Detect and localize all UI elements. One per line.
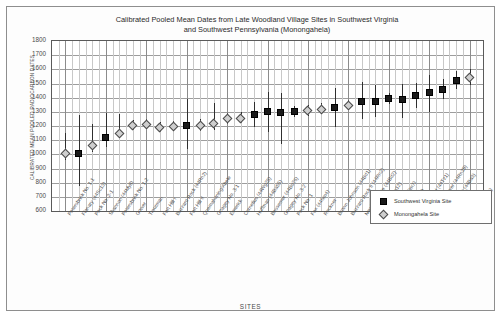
data-point-square-marker[interactable] [439,86,446,93]
data-point-diamond-marker[interactable] [236,113,246,123]
plot-area [51,40,484,212]
grid-line-vertical [476,41,477,211]
data-point-diamond-marker[interactable] [195,120,205,130]
data-point-square-marker[interactable] [358,98,365,105]
data-point-square-marker[interactable] [412,92,419,99]
data-point-square-marker[interactable] [331,104,338,111]
grid-line-vertical [402,41,403,211]
grid-line-vertical [362,41,363,211]
chart-frame: Calibrated Pooled Mean Dates from Late W… [6,6,495,311]
y-axis-tick-label: 700 [35,192,46,199]
chart-title-line-1: Calibrated Pooled Mean Dates from Late W… [67,15,447,25]
data-point-diamond-marker[interactable] [343,101,353,111]
data-point-diamond-marker[interactable] [61,149,71,159]
diamond-marker-icon [379,210,389,220]
grid-line-vertical-major [227,41,228,211]
y-axis-tick-label: 1400 [32,93,46,100]
data-point-square-marker[interactable] [385,95,392,102]
y-axis-tick-label: 1800 [32,36,46,43]
data-point-diamond-marker[interactable] [168,122,178,132]
y-axis-tick-label: 1000 [32,149,46,156]
grid-line-vertical [72,41,73,211]
data-point-diamond-marker[interactable] [303,105,313,115]
data-point-square-marker[interactable] [102,134,109,141]
y-axis-tick-label: 600 [35,206,46,213]
grid-line-vertical-major [389,41,390,211]
grid-line-vertical [321,41,322,211]
square-marker-icon [380,198,387,205]
chart-title: Calibrated Pooled Mean Dates from Late W… [67,15,447,35]
data-point-square-marker[interactable] [453,77,460,84]
data-point-diamond-marker[interactable] [128,120,138,130]
grid-line-vertical [416,41,417,211]
grid-line-vertical-major [348,41,349,211]
data-point-square-marker[interactable] [399,96,406,103]
grid-line-vertical [315,41,316,211]
data-point-diamond-marker[interactable] [114,128,124,138]
grid-line-vertical [207,41,208,211]
error-bar [106,113,107,146]
grid-line-vertical [375,41,376,211]
grid-line-vertical [153,41,154,211]
error-bar [281,93,282,143]
chart-legend: Southwest Virginia Site Monongahela Site [370,190,492,224]
grid-line-vertical-major [308,41,309,211]
data-point-diamond-marker[interactable] [222,114,232,124]
grid-line-vertical [342,41,343,211]
data-point-square-marker[interactable] [251,111,258,118]
data-point-square-marker[interactable] [372,98,379,105]
data-point-square-marker[interactable] [183,122,190,129]
grid-line-vertical-major [65,41,66,211]
y-axis-tick-label: 1100 [32,135,46,142]
y-axis-tick-label: 900 [35,164,46,171]
grid-line-vertical-major [429,41,430,211]
y-axis-tick-label: 1300 [32,107,46,114]
x-axis-tick-labels: Petersbrink No. 1-1Flanary (44Sc13)Peck … [51,213,484,305]
legend-label: Southwest Virginia Site [394,198,451,204]
grid-line-vertical [241,41,242,211]
chart-title-line-2: and Southwest Pennsylvania (Monongahela) [67,25,447,35]
grid-line-vertical [247,41,248,211]
data-point-diamond-marker[interactable] [209,119,219,129]
data-point-square-marker[interactable] [426,89,433,96]
data-point-diamond-marker[interactable] [87,141,97,151]
grid-line-vertical [113,41,114,211]
data-point-diamond-marker[interactable] [141,120,151,130]
y-axis-tick-label: 1500 [32,79,46,86]
y-axis-tick-labels: 1800170016001500140013001200110010009008… [7,34,49,218]
y-axis-tick-label: 1600 [32,64,46,71]
y-axis-tick-label: 1200 [32,121,46,128]
data-point-square-marker[interactable] [277,109,284,116]
data-point-square-marker[interactable] [264,108,271,115]
data-point-diamond-marker[interactable] [155,122,165,132]
grid-line-vertical [59,41,60,211]
data-point-square-marker[interactable] [291,108,298,115]
data-point-diamond-marker[interactable] [465,72,475,82]
data-point-square-marker[interactable] [75,150,82,157]
grid-line-vertical [180,41,181,211]
y-axis-tick-label: 800 [35,178,46,185]
grid-line-vertical [328,41,329,211]
grid-line-vertical [422,41,423,211]
legend-label: Monongahela Site [394,211,439,217]
y-axis-tick-label: 1700 [32,50,46,57]
grid-line-vertical [456,41,457,211]
x-axis-title: SITES [7,303,494,310]
